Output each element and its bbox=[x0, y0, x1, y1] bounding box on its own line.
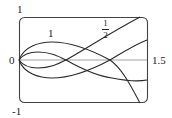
curve-1-upper bbox=[19, 42, 140, 103]
x-max-label: 1.5 bbox=[152, 55, 166, 66]
fraction-denominator: 2 bbox=[103, 30, 108, 40]
x-origin-label: 0 bbox=[9, 55, 15, 66]
y-min-label: -1 bbox=[12, 106, 21, 117]
fraction-numerator: 1 bbox=[103, 18, 108, 28]
curve-1-label: 1 bbox=[48, 28, 54, 39]
curve-1-lower bbox=[19, 40, 147, 78]
y-max-label: 1 bbox=[17, 4, 23, 15]
plot bbox=[0, 0, 172, 118]
curve-half-label: 1 2 bbox=[102, 19, 109, 40]
